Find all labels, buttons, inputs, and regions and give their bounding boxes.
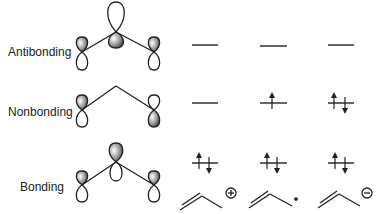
allyl-anion-structure xyxy=(318,188,372,208)
spin-down-arrow-icon xyxy=(342,108,348,114)
spin-down-arrow-icon xyxy=(342,168,348,174)
spin-up-arrow-icon xyxy=(196,152,202,158)
spin-down-arrow-icon xyxy=(274,168,280,174)
spin-up-arrow-icon xyxy=(332,152,338,158)
spin-down-arrow-icon xyxy=(206,168,212,174)
radical-dot-icon xyxy=(295,198,297,200)
level-bonding-cation xyxy=(192,152,218,174)
spin-up-arrow-icon xyxy=(264,152,270,158)
level-nonbonding-radical xyxy=(260,92,287,109)
allyl-radical-structure xyxy=(249,191,297,208)
mo-diagram xyxy=(0,0,379,214)
allyl-cation-structure xyxy=(180,188,236,210)
nonbonding-orbital-drawing xyxy=(76,86,159,127)
antibonding-orbital-drawing xyxy=(76,2,159,70)
level-bonding-anion xyxy=(328,152,354,174)
bonding-orbital-drawing xyxy=(76,143,159,202)
level-bonding-radical xyxy=(260,152,287,174)
spin-up-arrow-icon xyxy=(331,92,337,98)
level-nonbonding-anion xyxy=(328,92,354,114)
spin-up-arrow-icon xyxy=(269,92,275,98)
